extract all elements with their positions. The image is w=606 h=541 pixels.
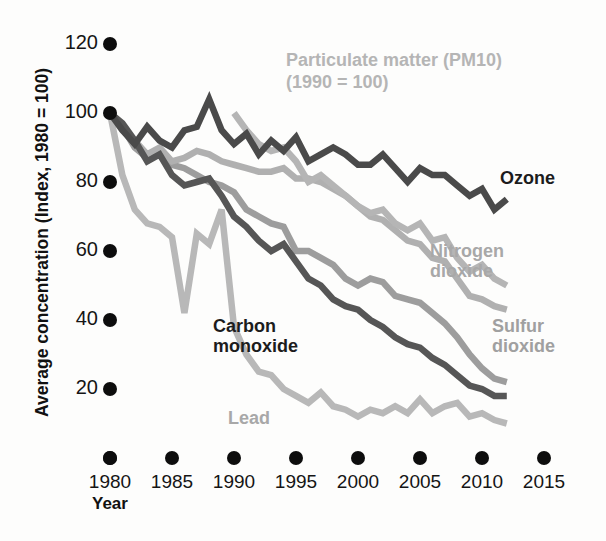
series-label-carbon-monoxide: Carbon monoxide [213,316,298,356]
y-axis-title: Average concentration (Index, 1980 = 100… [32,33,53,453]
x-tick-label: 2005 [391,471,449,493]
y-tick-label: 120 [52,31,98,54]
series-label-nitrogen-dioxide: Nitrogen dioxide [430,241,504,281]
series-label-sulfur-dioxide: Sulfur dioxide [492,316,555,356]
x-tick-dot [351,451,365,465]
x-tick-label: 2015 [515,471,573,493]
y-tick-dot [103,313,117,327]
y-tick-dot [103,37,117,51]
y-tick-dot [103,175,117,189]
x-tick-label: 1980 [81,471,139,493]
x-tick-dot [165,451,179,465]
x-tick-label: 1985 [143,471,201,493]
x-tick-label: 2010 [453,471,511,493]
y-tick-label: 80 [52,169,98,192]
y-tick-dots [103,37,117,465]
y-tick-label: 20 [52,376,98,399]
chart-container: 20406080100120 1980198519901995200020052… [0,0,606,541]
series-label-particulate-matter: Particulate matter (PM10) [286,50,502,70]
x-tick-dot [537,451,551,465]
x-tick-dots [103,451,551,465]
y-tick-dot [103,106,117,120]
y-tick-label: 60 [52,238,98,261]
x-tick-dot [475,451,489,465]
x-tick-dot [289,451,303,465]
y-tick-dot [103,382,117,396]
x-tick-label: 1995 [267,471,325,493]
y-tick-label: 100 [52,100,98,123]
x-tick-dot [103,451,117,465]
x-tick-label: 1990 [205,471,263,493]
x-tick-dot [227,451,241,465]
series-label-lead: Lead [228,408,270,428]
series-label-particulate-matter-baseline: (1990 = 100) [286,72,389,92]
x-tick-label: 2000 [329,471,387,493]
series-label-ozone: Ozone [500,168,555,188]
x-axis-title: Year [92,494,128,514]
y-tick-label: 40 [52,307,98,330]
y-tick-dot [103,244,117,258]
x-tick-dot [413,451,427,465]
